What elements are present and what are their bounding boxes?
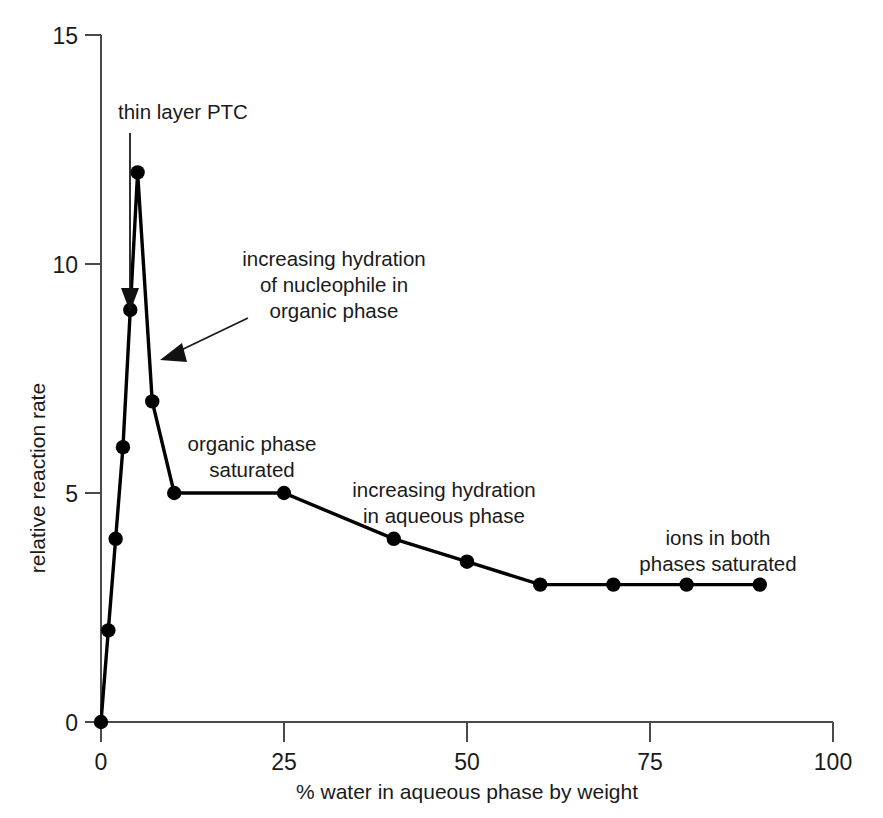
annotation-increasing-hydration-aqueous-line2: in aqueous phase [363, 504, 525, 527]
x-tick-label-100: 100 [814, 749, 852, 775]
data-point [460, 555, 474, 569]
y-tick-label-10: 10 [52, 252, 78, 278]
annotation-increasing-hydration-aqueous-line1: increasing hydration [352, 478, 535, 501]
annotation-increasing-hydration-organic-line3: organic phase [270, 299, 399, 322]
annotation-thin-layer-ptc-label: thin layer PTC [118, 100, 248, 123]
data-point [167, 486, 181, 500]
x-tick-label-50: 50 [454, 749, 480, 775]
annotation-organic-phase-saturated-line2: saturated [209, 458, 294, 481]
annotation-increasing-hydration-organic-leader [177, 318, 248, 352]
annotation-ions-both-phases-saturated-line1: ions in both [666, 526, 771, 549]
annotation-ions-both-phases-saturated-line2: phases saturated [639, 552, 796, 575]
data-point [108, 532, 122, 546]
annotation-increasing-hydration-organic: increasing hydration of nucleophile in o… [160, 247, 426, 362]
x-axis-title: % water in aqueous phase by weight [296, 780, 638, 803]
x-tick-label-0: 0 [95, 749, 108, 775]
reaction-rate-line-chart: 15 10 5 0 0 25 50 75 100 % water in aque… [0, 0, 883, 818]
x-tick-label-75: 75 [637, 749, 663, 775]
x-tick-label-25: 25 [271, 749, 297, 775]
annotation-organic-phase-saturated-line1: organic phase [188, 432, 317, 455]
data-point [94, 715, 108, 729]
data-point [606, 577, 620, 591]
chart-figure: 15 10 5 0 0 25 50 75 100 % water in aque… [0, 0, 883, 818]
y-axis-title: relative reaction rate [26, 383, 49, 573]
data-point [753, 577, 767, 591]
annotation-organic-phase-saturated: organic phase saturated [188, 432, 317, 481]
y-axis [85, 35, 101, 722]
y-tick-label-0: 0 [65, 710, 78, 736]
data-point [277, 486, 291, 500]
annotation-increasing-hydration-organic-arrowhead [160, 343, 187, 362]
x-axis [101, 722, 833, 742]
data-point [116, 440, 130, 454]
data-point [145, 394, 159, 408]
data-point [679, 577, 693, 591]
annotation-increasing-hydration-organic-line1: increasing hydration [242, 247, 425, 270]
annotation-increasing-hydration-organic-line2: of nucleophile in [260, 273, 408, 296]
y-tick-label-5: 5 [65, 481, 78, 507]
data-point [387, 532, 401, 546]
data-point [101, 623, 115, 637]
annotation-ions-both-phases-saturated: ions in both phases saturated [639, 526, 796, 575]
data-point [130, 165, 144, 179]
annotation-increasing-hydration-aqueous: increasing hydration in aqueous phase [352, 478, 535, 527]
data-point [533, 577, 547, 591]
y-tick-label-15: 15 [52, 23, 78, 49]
